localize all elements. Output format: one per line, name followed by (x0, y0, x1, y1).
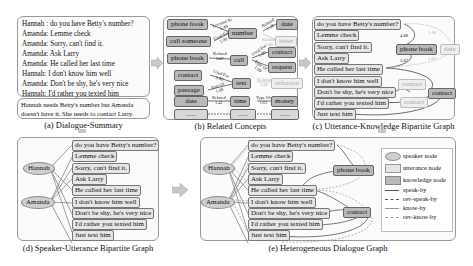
knowledge-contact-faint: contact (398, 79, 426, 90)
utterance-node: Just text him (314, 109, 356, 120)
utterance-text: I'd rather you texted him (48, 90, 119, 98)
knowledge-node-phone-book: phone book (333, 165, 374, 176)
utterance-node: do you have Betty's number? (72, 140, 159, 151)
speaker-name: Hannah: (22, 70, 46, 78)
weight-label: 5.07 (428, 56, 436, 61)
relation-label: Related 1.41 (212, 95, 226, 105)
knowledge-date: date (440, 44, 460, 55)
concept-time: time (230, 96, 250, 107)
utterance-node: I don't know him well (314, 76, 382, 87)
utterance-text: Ask Larry (50, 50, 79, 58)
concept-letter: letter (275, 36, 297, 47)
legend-label-know-by: know-by (403, 204, 426, 212)
legend-label-knowledge: knowledge node (403, 176, 446, 184)
utterance-node: He called her last time (72, 185, 141, 196)
speaker-name: Hannah : (22, 20, 48, 28)
dialogue-lines: Hannah : do you have Betty's number?Aman… (22, 19, 145, 109)
concept-date: date (276, 19, 298, 30)
knowledge-contact-faint: contact (400, 97, 428, 108)
speaker-node-amanda: Amanda (21, 196, 55, 209)
utterance-text: He called her last time (50, 60, 115, 68)
summary-text: Hannah needs Betty's number but Amanda d… (21, 101, 134, 117)
panel-dialogue: Hannah : do you have Betty's number?Aman… (17, 16, 150, 97)
utterance-text: I don't know him well (48, 70, 111, 78)
caption-d: (d) Speaker-Utterance Bipartite Graph (17, 243, 159, 253)
arrow-right-icon (172, 183, 188, 201)
legend-label-utterance: utterance node (403, 164, 441, 172)
utterance-node: Just text him (72, 230, 114, 241)
concept-refractor: refractor (271, 78, 303, 89)
speaker-node-amanda: Amanda (201, 196, 235, 209)
speaker-name: Hannah: (22, 90, 46, 98)
legend-label-rev-know-by: rev-know-by (403, 213, 437, 221)
weight-label: 4.88 (400, 33, 408, 38)
concept-phone-book: phone book (167, 19, 208, 30)
dialogue-line: Hannah: I don't know him well (22, 69, 145, 79)
dialogue-line: Amanda: He called her last time (22, 59, 145, 69)
utterance-node: Ask Larry (72, 174, 107, 185)
utterance-node: Don't be shy, he's very nice (72, 208, 154, 219)
legend-line-rev-speak-by (385, 199, 399, 200)
utterance-node: Sorry, can't find it. (72, 163, 130, 174)
dialogue-line: Hannah : do you have Betty's number? (22, 19, 145, 29)
knowledge-contact: contact (428, 88, 456, 99)
utterance-node: Lemme check (248, 151, 293, 162)
concept-phone-book-2: phone book (167, 53, 208, 64)
utterance-node: He called her last time (248, 185, 317, 196)
speaker-node-hannah: Hannah (23, 162, 55, 175)
utterance-text: Sorry, can't find it. (50, 40, 103, 48)
concept-passage: passage (174, 85, 204, 96)
speaker-node-hannah: Hannah (203, 162, 235, 175)
arrow-down-icon (378, 129, 386, 133)
utterance-node: do you have Betty's number? (248, 140, 335, 151)
dialogue-line: Amanda: Lemme check (22, 29, 145, 39)
arrow-down-icon (78, 129, 86, 133)
concept-call-someone: call someone (166, 36, 211, 47)
dialogue-line: Amanda: Sorry, can't find it. (22, 39, 145, 49)
legend-line-rev-know-by (385, 217, 399, 218)
utterance-node: I'd rather you texted him (72, 219, 147, 230)
concept-more-1: ...... (174, 109, 208, 120)
concept-more-2: ...... (230, 109, 256, 120)
concept-date-2: date (174, 96, 208, 107)
dialogue-line: Amanda: Don't be shy, he's very nice (22, 79, 145, 89)
utterance-node: Lemme check (72, 151, 117, 162)
speaker-name: Amanda: (22, 30, 48, 38)
concept-request: request (268, 62, 296, 73)
speaker-name: Amanda: (22, 80, 48, 88)
utterance-node: Don't be shy, he's very nice (248, 208, 330, 219)
concept-contact: contact (268, 47, 296, 58)
legend-swatch-utterance (385, 164, 401, 173)
utterance-text: Lemme check (50, 30, 91, 38)
caption-e: (e) Heterogeneous Dialogue Graph (200, 243, 456, 253)
legend-label-speak-by: speak-by (403, 186, 426, 194)
utterance-text: do you have Betty's number? (50, 20, 134, 28)
legend-line-speak-by (385, 190, 399, 191)
utterance-node: Don't be shy, he's very nice (314, 87, 396, 98)
legend-label-speaker: speaker node (403, 152, 437, 160)
relation-label: Related 5.07 (213, 51, 227, 61)
legend-label-rev-speak-by: rev-speak-by (403, 195, 437, 203)
knowledge-phone-book: phone book (396, 44, 437, 55)
concept-number: number (228, 28, 257, 39)
utterance-node: I'd rather you texted him (314, 98, 389, 109)
speaker-name: Amanda: (22, 60, 48, 68)
utterance-node: do you have Betty's number? (314, 19, 401, 30)
utterance-node: I don't know him well (248, 197, 316, 208)
legend-swatch-speaker (385, 152, 401, 161)
arrow-right-icon (151, 55, 163, 73)
utterance-node: Ask Larry (248, 174, 283, 185)
concept-money: money (271, 96, 298, 107)
arrow-right-icon (299, 55, 311, 73)
utterance-node: Lemme check (314, 30, 359, 41)
concept-call: call (230, 55, 248, 66)
legend-line-know-by (385, 208, 399, 209)
speaker-name: Amanda: (22, 40, 48, 48)
utterance-node: Just text him (248, 230, 290, 241)
utterance-node: Ask Larry (314, 53, 349, 64)
speaker-name: Amanda: (22, 50, 48, 58)
weight-label: 1.18 (428, 30, 436, 35)
panel-summary: Hannah needs Betty's number but Amanda d… (17, 98, 150, 119)
concept-contact-2: contact (174, 70, 202, 81)
weight-label: 5.07 (400, 58, 408, 63)
